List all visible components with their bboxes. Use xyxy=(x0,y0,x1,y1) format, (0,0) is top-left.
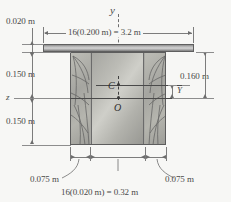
top-dimension-extension-right xyxy=(193,27,194,43)
web-bottom-extension xyxy=(22,145,71,146)
bottom-width-label: 16(0.020 m) = 0.32 m xyxy=(61,188,138,197)
web-upper-dimension-line xyxy=(32,52,33,98)
right-height-upper-extension xyxy=(196,52,214,53)
web-upper-arrow-down xyxy=(30,52,34,56)
web-lower-dimension-line xyxy=(32,98,33,144)
web-lower-height-label: 0.150 m xyxy=(6,117,35,126)
z-axis-line xyxy=(14,98,70,99)
top-width-label: 16(0.200 m) = 3.2 m xyxy=(66,28,143,37)
web-lower-arrow-up xyxy=(30,140,34,144)
y-axis-label: y xyxy=(110,5,115,16)
ybar-label: Y xyxy=(177,85,182,95)
web-lower-arrow-down xyxy=(30,99,34,103)
top-dimension-arrow-left xyxy=(44,31,48,35)
top-dimension-extension-left xyxy=(43,27,44,43)
right-web-width-label: 0.075 m xyxy=(165,175,194,184)
flange-thickness-arrow-up xyxy=(30,41,34,45)
flange-plate xyxy=(43,44,194,52)
ybar-arrow-up xyxy=(170,94,174,98)
centroid-label-c: C xyxy=(108,81,115,91)
flange-thickness-label: 0.020 m xyxy=(6,17,35,26)
origin-label-o: O xyxy=(114,103,121,113)
top-dimension-arrow-right xyxy=(188,31,192,35)
right-height-dimension-line xyxy=(205,52,206,98)
z-axis-label: z xyxy=(6,93,9,102)
origin-marker-dot xyxy=(117,96,120,99)
right-height-lower-extension xyxy=(172,98,214,99)
figure-canvas: y 16(0.200 m) = 3.2 m xyxy=(0,0,231,202)
left-web-width-label: 0.075 m xyxy=(30,175,59,184)
web-upper-height-label: 0.150 m xyxy=(6,70,35,79)
origin-horizontal-line xyxy=(70,98,172,99)
centroid-marker-dot xyxy=(117,83,120,86)
